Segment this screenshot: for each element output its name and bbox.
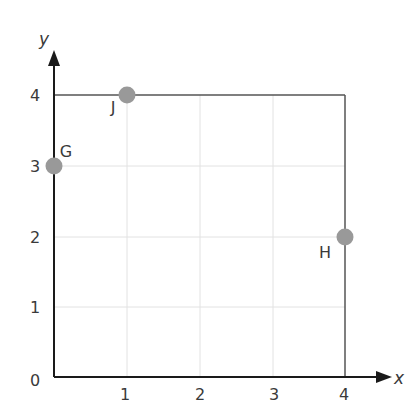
x-tick-4: 4 <box>339 385 349 404</box>
point-j-marker <box>119 87 136 104</box>
point-j-label: J <box>110 98 116 117</box>
point-h-label: H <box>319 243 331 262</box>
x-tick-3: 3 <box>269 385 279 404</box>
x-axis-arrow-icon <box>376 371 392 383</box>
point-h: H <box>319 229 354 263</box>
y-axis-arrow-icon <box>48 50 60 66</box>
x-axis <box>54 371 392 383</box>
grid <box>54 95 345 377</box>
point-h-marker <box>337 229 354 246</box>
y-tick-4: 4 <box>30 86 40 105</box>
x-axis-label: x <box>393 368 405 388</box>
x-tick-2: 2 <box>195 385 205 404</box>
y-tick-1: 1 <box>30 298 40 317</box>
origin-label: 0 <box>30 371 40 390</box>
y-tick-3: 3 <box>30 157 40 176</box>
point-g: G <box>46 142 73 175</box>
y-axis-label: y <box>38 29 50 49</box>
point-g-label: G <box>60 142 72 161</box>
y-tick-2: 2 <box>30 228 40 247</box>
x-tick-1: 1 <box>120 385 130 404</box>
coordinate-plane: y x 0 1 2 3 4 1 2 3 4 J G H <box>0 0 415 419</box>
point-j: J <box>110 87 136 118</box>
y-axis <box>48 50 60 377</box>
